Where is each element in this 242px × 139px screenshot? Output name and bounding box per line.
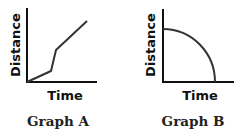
graph-b: Distance Time Graph B — [143, 9, 235, 129]
graph-b-curve — [163, 29, 215, 82]
figure: Distance Time Graph A Distance Time Grap… — [0, 0, 242, 139]
graph-b-caption: Graph B — [162, 113, 225, 129]
graph-a: Distance Time Graph A — [8, 8, 98, 129]
graph-a-ylabel: Distance — [8, 13, 23, 77]
graph-b-ylabel: Distance — [143, 13, 158, 77]
graph-a-xlabel: Time — [47, 88, 83, 103]
graph-a-line — [27, 21, 87, 82]
graph-a-caption: Graph A — [27, 113, 89, 129]
graph-b-xlabel: Time — [182, 88, 218, 103]
